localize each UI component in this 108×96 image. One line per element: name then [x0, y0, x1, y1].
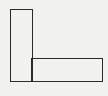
diagram-canvas — [0, 0, 108, 96]
horizontal-rectangle — [31, 58, 103, 82]
vertical-rectangle — [10, 9, 33, 82]
